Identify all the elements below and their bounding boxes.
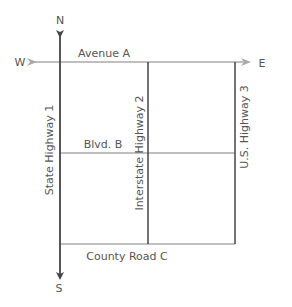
avenue-a-label: Avenue A [78,47,130,60]
interstate-highway-2-label: Interstate Highway 2 [133,95,146,210]
county-road-c-label: County Road C [86,250,168,263]
blvd-b-label: Blvd. B [84,138,123,151]
compass-west-label: W [15,56,26,69]
compass-north-label: N [56,14,64,27]
compass-south-label: S [56,282,63,295]
us-highway-3-label: U.S. Highway 3 [238,85,251,169]
state-highway-1-label: State Highway 1 [43,105,56,196]
road-map-diagram: N S W E Avenue A Blvd. B County Road C S… [0,0,292,307]
compass-east-label: E [259,57,266,70]
